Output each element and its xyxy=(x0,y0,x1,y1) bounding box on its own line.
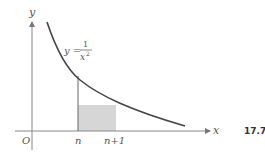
function-denominator: x xyxy=(80,52,85,62)
shaded-rectangle xyxy=(78,105,116,131)
function-exponent: 2 xyxy=(86,50,90,57)
function-label-lhs: y = xyxy=(63,45,81,56)
y-axis-label: y xyxy=(28,6,36,19)
tick-label-n-plus-1: n+1 xyxy=(104,135,125,146)
origin-label: O xyxy=(22,135,30,146)
figure-diagram: y x O n n+1 y = 1 x 2 17.7 xyxy=(0,0,265,153)
tick-label-n: n xyxy=(75,135,81,146)
function-numerator: 1 xyxy=(83,40,88,49)
figure-number: 17.7 xyxy=(244,126,265,136)
x-axis-label: x xyxy=(213,124,220,137)
